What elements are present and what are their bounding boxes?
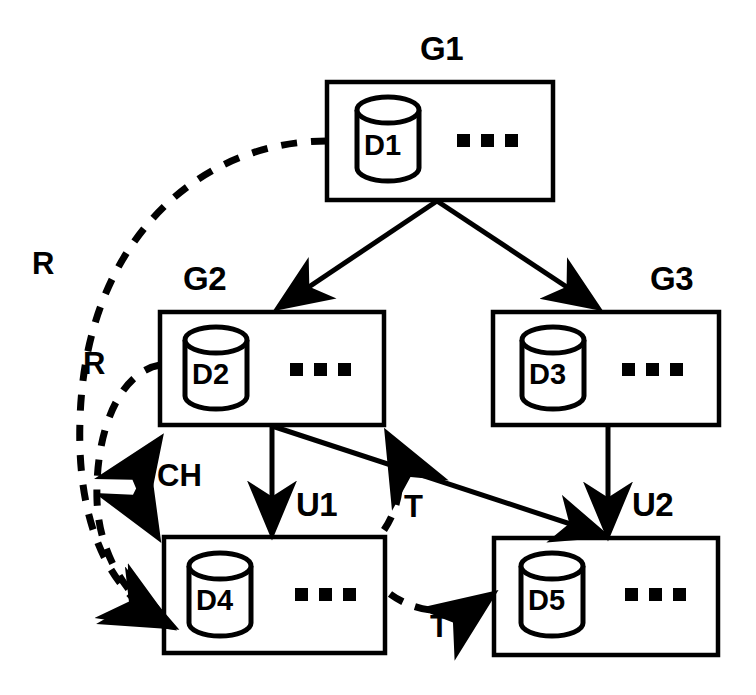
ellipsis-g1 (457, 134, 518, 147)
ellipsis-g2 (290, 363, 351, 376)
edge-label-ch: CH (157, 458, 202, 494)
ellipsis-u2 (625, 588, 686, 601)
edge-label-t-horizontal: T (430, 609, 449, 645)
edge-label-r-outer: R (32, 246, 54, 282)
edge-g1-g3 (437, 201, 597, 307)
db-label-d4: D4 (196, 584, 233, 617)
edge-g1-g2 (279, 201, 437, 307)
db-label-d1: D1 (364, 129, 401, 162)
node-label-u1: U1 (296, 486, 337, 524)
edge-t-vertical (384, 437, 400, 530)
node-label-u2: U2 (632, 486, 673, 524)
node-label-g2: G2 (183, 260, 226, 298)
edge-label-r-inner: R (83, 346, 105, 382)
edge-r-inner (97, 365, 168, 625)
node-label-g3: G3 (650, 260, 693, 298)
db-label-d2: D2 (192, 358, 229, 391)
edge-ch (143, 442, 158, 534)
ellipsis-g3 (622, 363, 683, 376)
db-label-d5: D5 (528, 584, 565, 617)
node-label-g1: G1 (420, 30, 463, 68)
ellipsis-u1 (295, 588, 356, 601)
diagram-canvas: G1 G2 G3 U1 U2 D1 D2 D3 D4 D5 R R CH T T (0, 0, 756, 695)
db-label-d3: D3 (529, 358, 566, 391)
edge-label-t-vertical: T (404, 489, 423, 525)
